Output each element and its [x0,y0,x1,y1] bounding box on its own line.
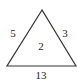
triangle-diagram: 5 3 2 13 [0,0,77,81]
bottom-label: 13 [36,69,48,81]
left-side-label: 5 [10,27,16,39]
right-side-label: 3 [62,27,68,39]
center-label: 2 [38,40,44,52]
